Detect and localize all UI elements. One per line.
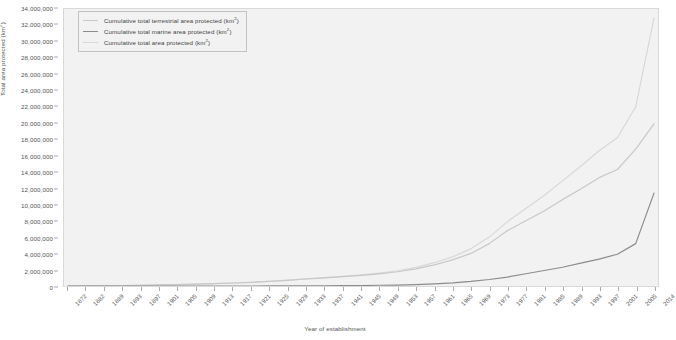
y-axis-tick-label: 30,000,000 — [21, 37, 53, 44]
legend-item-label: Cumulative total area protected (km2) — [104, 38, 210, 46]
x-axis-tick-mark — [453, 287, 454, 291]
x-axis-tick-mark — [177, 287, 178, 291]
x-axis-tick-mark — [159, 287, 160, 291]
legend-label-superscript: 2 — [227, 27, 230, 32]
y-axis-tick-mark — [54, 73, 58, 74]
x-axis-tick-label: 1921 — [258, 293, 272, 307]
legend-color-swatch — [83, 20, 98, 21]
legend-item[interactable]: Cumulative total terrestrial area protec… — [83, 15, 239, 26]
x-axis-tick-label: 1949 — [386, 293, 400, 307]
x-axis-tick-mark — [269, 287, 270, 291]
x-axis-tick-mark — [416, 287, 417, 291]
y-axis-tick-label: 28,000,000 — [21, 54, 53, 61]
x-axis-tick-mark — [490, 287, 491, 291]
y-axis-tick-mark — [54, 270, 58, 271]
x-axis-tick-mark — [104, 287, 105, 291]
y-axis-tick-mark — [54, 188, 58, 189]
y-axis-tick-mark — [54, 106, 58, 107]
y-axis-tick-label: 16,000,000 — [21, 152, 53, 159]
legend-item[interactable]: Cumulative total marine area protected (… — [83, 26, 239, 37]
y-axis-tick-mark — [54, 122, 58, 123]
legend-item-label: Cumulative total terrestrial area protec… — [104, 16, 239, 24]
x-axis-tick-label: 1937 — [331, 293, 345, 307]
y-axis-tick-label: 12,000,000 — [21, 185, 53, 192]
x-axis-tick-mark — [600, 287, 601, 291]
y-axis-tick-label: 2,000,000 — [25, 267, 53, 274]
x-axis-tick-mark — [526, 287, 527, 291]
y-axis-tick-label: 26,000,000 — [21, 70, 53, 77]
y-axis-tick-label: 32,000,000 — [21, 21, 53, 28]
y-axis-tick-mark — [54, 254, 58, 255]
x-axis-tick-label: 1941 — [350, 293, 364, 307]
y-axis-tick-mark — [54, 90, 58, 91]
x-axis-tick-mark — [343, 287, 344, 291]
x-axis-tick-label: 2001 — [625, 293, 639, 307]
x-axis-tick-mark — [508, 287, 509, 291]
x-axis-ticks: 1872188218891893189719011905190919131917… — [63, 287, 659, 329]
x-axis-tick-label: 1957 — [423, 293, 437, 307]
y-axis-tick-mark — [54, 24, 58, 25]
x-axis-tick-mark — [361, 287, 362, 291]
x-axis-tick-label: 1897 — [148, 293, 162, 307]
x-axis-tick-mark — [67, 287, 68, 291]
y-axis-tick-label: 24,000,000 — [21, 87, 53, 94]
x-axis-tick-label: 1929 — [295, 293, 309, 307]
x-axis-title: Year of establishment — [0, 325, 670, 332]
y-axis-ticks: 02,000,0004,000,0006,000,0008,000,00010,… — [0, 8, 58, 287]
x-axis-tick-mark — [435, 287, 436, 291]
x-axis-tick-mark — [122, 287, 123, 291]
x-axis-tick-label: 1961 — [442, 293, 456, 307]
x-axis-tick-mark — [563, 287, 564, 291]
x-axis-tick-label: 2005 — [644, 293, 658, 307]
x-axis-tick-label: 1969 — [478, 293, 492, 307]
y-axis-tick-mark — [54, 40, 58, 41]
y-axis-tick-mark — [54, 287, 58, 288]
x-axis-tick-mark — [232, 287, 233, 291]
x-axis-tick-label: 1882 — [92, 293, 106, 307]
x-axis-tick-mark — [582, 287, 583, 291]
x-axis-tick-mark — [196, 287, 197, 291]
x-axis-tick-label: 1872 — [74, 293, 88, 307]
chart-legend: Cumulative total terrestrial area protec… — [78, 11, 247, 52]
x-axis-tick-label: 1989 — [570, 293, 584, 307]
x-axis-tick-mark — [637, 287, 638, 291]
x-axis-tick-mark — [214, 287, 215, 291]
x-axis-tick-label: 1997 — [607, 293, 621, 307]
legend-label-superscript: 2 — [234, 16, 237, 21]
x-axis-tick-mark — [288, 287, 289, 291]
y-axis-tick-label: 18,000,000 — [21, 136, 53, 143]
x-axis-tick-label: 1913 — [221, 293, 235, 307]
chart-line-series — [68, 124, 654, 286]
legend-color-swatch — [83, 42, 98, 43]
y-axis-tick-mark — [54, 237, 58, 238]
x-axis-tick-mark — [306, 287, 307, 291]
x-axis-tick-mark — [251, 287, 252, 291]
x-axis-tick-mark — [379, 287, 380, 291]
y-axis-tick-mark — [54, 8, 58, 9]
x-axis-tick-label: 1945 — [368, 293, 382, 307]
y-axis-tick-mark — [54, 155, 58, 156]
chart-line-series — [68, 18, 654, 286]
y-axis-tick-mark — [54, 172, 58, 173]
y-axis-tick-label: 22,000,000 — [21, 103, 53, 110]
x-axis-tick-label: 1953 — [405, 293, 419, 307]
chart-line-series — [68, 193, 654, 286]
x-axis-tick-mark — [618, 287, 619, 291]
x-axis-tick-label: 1893 — [129, 293, 143, 307]
y-axis-tick-label: 6,000,000 — [25, 234, 53, 241]
x-axis-tick-label: 1889 — [111, 293, 125, 307]
x-axis-tick-mark — [655, 287, 656, 291]
legend-color-swatch — [83, 31, 98, 32]
x-axis-tick-mark — [85, 287, 86, 291]
y-axis-tick-mark — [54, 204, 58, 205]
x-axis-tick-label: 1977 — [515, 293, 529, 307]
y-axis-tick-label: 10,000,000 — [21, 201, 53, 208]
y-axis-tick-label: 34,000,000 — [21, 5, 53, 12]
x-axis-tick-label: 1933 — [313, 293, 327, 307]
legend-item[interactable]: Cumulative total area protected (km2) — [83, 37, 239, 48]
x-axis-tick-mark — [324, 287, 325, 291]
y-axis-tick-label: 0 — [49, 284, 53, 291]
x-axis-tick-label: 1981 — [533, 293, 547, 307]
x-axis-tick-label: 1905 — [184, 293, 198, 307]
